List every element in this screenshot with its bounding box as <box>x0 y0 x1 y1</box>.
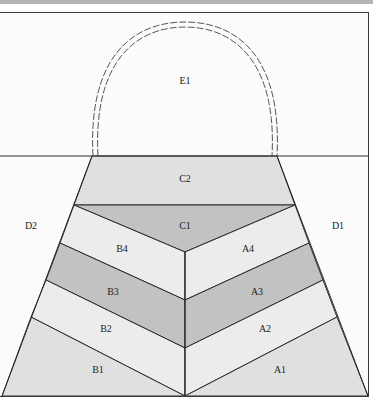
label-d1: D1 <box>332 220 344 231</box>
label-a2: A2 <box>259 323 271 334</box>
label-e1: E1 <box>179 75 190 86</box>
label-d2: D2 <box>25 220 37 231</box>
label-b3: B3 <box>107 286 119 297</box>
label-b2: B2 <box>100 323 112 334</box>
label-b4: B4 <box>116 243 128 254</box>
label-c2: C2 <box>179 173 191 184</box>
quilt-diagram: E1 C2 C1 D2 D1 B4 A4 B3 A3 B2 A2 B1 A1 <box>0 0 373 397</box>
label-a1: A1 <box>274 364 286 375</box>
label-c1: C1 <box>179 220 191 231</box>
label-b1: B1 <box>92 364 104 375</box>
label-a4: A4 <box>242 243 254 254</box>
label-a3: A3 <box>251 286 263 297</box>
